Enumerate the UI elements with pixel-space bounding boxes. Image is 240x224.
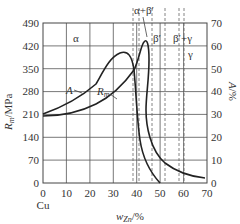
tick-label: 70 bbox=[28, 154, 40, 166]
y-right-ticks: 0 10 20 30 40 50 60 70 bbox=[211, 17, 223, 189]
phase-label-beta-gamma: β′+γ bbox=[173, 32, 192, 44]
x-axis-title: wZn/% bbox=[116, 210, 144, 224]
x-axis-title-unit: /% bbox=[132, 210, 144, 222]
phase-label-alpha-beta: α+β′ bbox=[134, 4, 154, 16]
x-origin-label: Cu bbox=[37, 199, 50, 211]
phase-label-alpha: α bbox=[73, 32, 79, 44]
tick-label: 70 bbox=[211, 17, 223, 29]
tick-label: 20 bbox=[211, 131, 223, 143]
chart-canvas: 0 70 140 210 280 350 420 490 0 10 20 30 … bbox=[0, 0, 240, 224]
tick-label: 280 bbox=[23, 85, 40, 97]
tick-label: 350 bbox=[23, 63, 40, 75]
phase-label-beta: β′ bbox=[153, 32, 161, 44]
curve-label-Rm: Rm bbox=[96, 85, 110, 99]
tick-label: 60 bbox=[211, 40, 223, 52]
tick-label: 490 bbox=[23, 17, 40, 29]
x-ticks: 0 10 20 30 40 50 60 70 bbox=[40, 187, 213, 199]
y-right-title-unit: /% bbox=[227, 89, 239, 101]
tick-label: 0 bbox=[40, 187, 46, 199]
tick-label: 210 bbox=[23, 108, 40, 120]
tick-label: 20 bbox=[84, 187, 96, 199]
curve-A bbox=[43, 52, 160, 183]
tick-label: 40 bbox=[211, 85, 223, 97]
curve-Rm bbox=[43, 41, 205, 178]
tick-label: 50 bbox=[155, 187, 167, 199]
tick-label: 40 bbox=[131, 187, 143, 199]
alpha-beta-leader bbox=[143, 17, 147, 37]
tick-label: 60 bbox=[178, 187, 190, 199]
y-left-ticks: 0 70 140 210 280 350 420 490 bbox=[23, 17, 40, 189]
phase-label-gamma: γ bbox=[187, 48, 193, 60]
x-axis-title-sub: Zn bbox=[123, 215, 131, 224]
tick-label: 30 bbox=[211, 108, 223, 120]
y-left-title-unit: /MPa bbox=[2, 94, 14, 118]
tick-label: 10 bbox=[61, 187, 73, 199]
curve-label-A: A bbox=[65, 84, 73, 96]
tick-label: 140 bbox=[23, 131, 40, 143]
tick-label: 0 bbox=[34, 177, 40, 189]
curve-label-Rm-sub: m bbox=[104, 90, 110, 99]
tick-label: 10 bbox=[211, 154, 223, 166]
tick-label: 420 bbox=[23, 40, 40, 52]
tick-label: 30 bbox=[108, 187, 120, 199]
y-left-axis-title: Rm/MPa bbox=[2, 94, 16, 131]
tick-label: 50 bbox=[211, 63, 223, 75]
tick-label: 70 bbox=[202, 187, 214, 199]
y-right-axis-title: A/% bbox=[227, 81, 239, 101]
